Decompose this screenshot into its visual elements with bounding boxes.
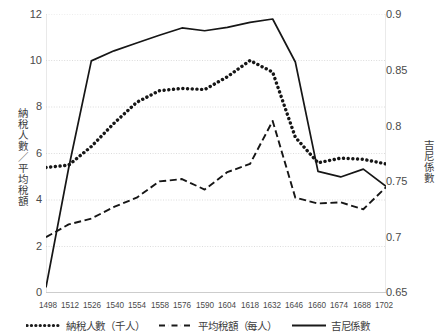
plot-area bbox=[46, 14, 386, 293]
y-axis-left-tick: 10 bbox=[18, 54, 42, 66]
legend-item-gini: 吉尼係數 bbox=[291, 318, 370, 333]
y-axis-right-tick: 0.65 bbox=[386, 286, 420, 298]
dotted-line-icon bbox=[26, 321, 62, 330]
y-axis-right-tick: 0.9 bbox=[386, 8, 420, 20]
dashed-line-icon bbox=[158, 321, 194, 330]
legend-item-taxpayers: 納稅人數（千人） bbox=[26, 318, 144, 333]
plot-svg bbox=[46, 14, 386, 293]
legend-label: 吉尼係數 bbox=[331, 318, 370, 333]
y-axis-right-tick: 0.85 bbox=[386, 64, 420, 76]
legend-label: 納稅人數（千人） bbox=[66, 318, 144, 333]
series-line-dotted bbox=[46, 61, 386, 168]
y-axis-left-tick: 8 bbox=[18, 100, 42, 112]
series-line-dashed bbox=[46, 121, 386, 237]
solid-line-icon bbox=[291, 321, 327, 330]
y-axis-right-tick: 0.75 bbox=[386, 175, 420, 187]
y-axis-left-tick: 6 bbox=[18, 147, 42, 159]
y-axis-left-tick: 2 bbox=[18, 240, 42, 252]
gini-taxpayer-line-chart: 納稅人數／平均稅額 吉尼係數 12 10 8 6 4 2 0 0.9 0.85 … bbox=[0, 0, 436, 335]
x-axis-tick: 1702 bbox=[371, 301, 397, 310]
y-axis-right-tick: 0.7 bbox=[386, 231, 420, 243]
y-axis-left-tick: 0 bbox=[18, 286, 42, 298]
chart-legend: 納稅人數（千人） 平均稅額（每人） 吉尼係數 bbox=[26, 318, 418, 333]
y-axis-right-tick: 0.8 bbox=[386, 120, 420, 132]
legend-label: 平均稅額（每人） bbox=[198, 318, 276, 333]
y-axis-left-tick: 12 bbox=[18, 8, 42, 20]
legend-item-average-tax: 平均稅額（每人） bbox=[158, 318, 276, 333]
y-axis-left-tick: 4 bbox=[18, 193, 42, 205]
gridlines bbox=[46, 14, 386, 293]
